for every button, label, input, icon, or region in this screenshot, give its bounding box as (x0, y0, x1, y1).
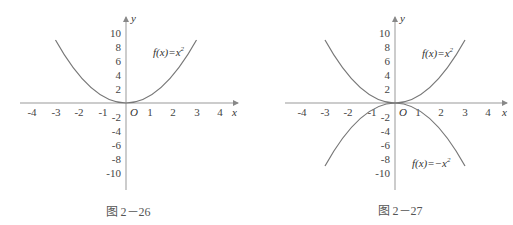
caption: 图 2－27 (378, 204, 423, 218)
svg-text:1: 1 (415, 106, 421, 118)
x-axis-label: x (501, 106, 507, 118)
svg-text:-3: -3 (320, 106, 330, 118)
svg-text:6: 6 (385, 55, 391, 67)
svg-text:-10: -10 (106, 167, 121, 179)
svg-text:-6: -6 (112, 139, 122, 151)
svg-text:2: 2 (116, 83, 122, 95)
svg-text:-4: -4 (112, 125, 122, 137)
series-label-x-squared: f(x)=x2 (422, 46, 454, 60)
chart-1: x y O -4 -3 -2 -1 1 2 3 4 10 8 6 4 2 -2 … (20, 12, 238, 219)
svg-text:8: 8 (116, 41, 122, 53)
svg-text:-2: -2 (343, 106, 352, 118)
svg-text:8: 8 (385, 41, 391, 53)
x-tick-labels: -4 -3 -2 -1 1 2 3 4 (27, 106, 223, 118)
svg-text:-10: -10 (375, 167, 390, 179)
figure: x y O -4 -3 -2 -1 1 2 3 4 10 8 6 4 2 -2 … (0, 0, 513, 225)
origin-label: O (399, 106, 407, 118)
y-axis-label: y (130, 12, 136, 24)
chart-2: x y O -4 -3 -2 -1 1 2 3 4 10 8 6 4 2 -2 … (285, 12, 507, 218)
caption: 图 2－26 (106, 205, 151, 219)
svg-text:-4: -4 (381, 125, 391, 137)
svg-text:6: 6 (116, 55, 122, 67)
x-axis-label: x (231, 106, 237, 118)
svg-text:3: 3 (462, 106, 468, 118)
svg-text:-3: -3 (51, 106, 61, 118)
svg-text:2: 2 (438, 106, 444, 118)
svg-text:-6: -6 (381, 139, 391, 151)
svg-text:-4: -4 (27, 106, 37, 118)
svg-text:-1: -1 (98, 106, 107, 118)
svg-text:4: 4 (217, 106, 223, 118)
series-label-neg-x-squared: f(x)=−x2 (412, 156, 451, 170)
svg-text:-2: -2 (381, 111, 390, 123)
svg-text:10: 10 (379, 27, 391, 39)
x-tick-labels: -4 -3 -2 -1 1 2 3 4 (297, 106, 491, 118)
svg-text:3: 3 (194, 106, 200, 118)
svg-text:-8: -8 (381, 153, 391, 165)
svg-text:1: 1 (147, 106, 153, 118)
svg-text:2: 2 (170, 106, 176, 118)
svg-text:4: 4 (485, 106, 491, 118)
svg-text:4: 4 (116, 69, 122, 81)
svg-text:4: 4 (385, 69, 391, 81)
svg-text:-4: -4 (297, 106, 307, 118)
svg-text:-8: -8 (112, 153, 122, 165)
svg-text:-2: -2 (74, 106, 83, 118)
series-label-x-squared: f(x)=x2 (153, 45, 185, 59)
svg-text:2: 2 (385, 83, 391, 95)
origin-label: O (130, 106, 138, 118)
svg-text:10: 10 (110, 27, 122, 39)
svg-text:-2: -2 (112, 111, 121, 123)
y-axis-label: y (399, 12, 405, 24)
